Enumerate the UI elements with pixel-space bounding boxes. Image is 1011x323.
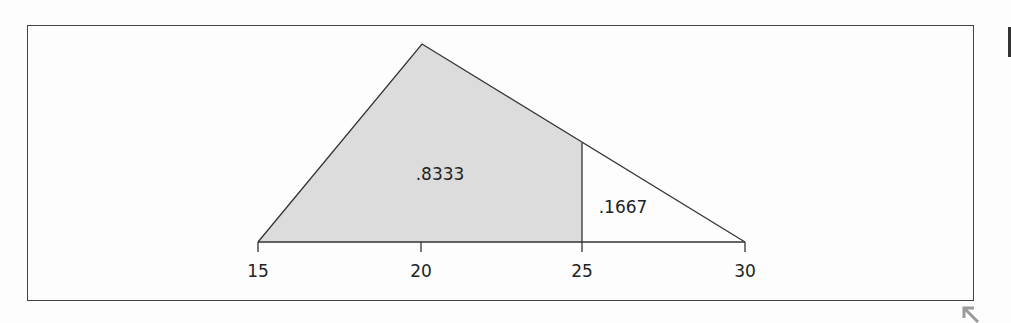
tick-label-25: 25 bbox=[571, 261, 593, 281]
tick-label-30: 30 bbox=[734, 261, 756, 281]
shaded-area bbox=[258, 44, 582, 242]
shaded-probability-label: .8333 bbox=[416, 164, 465, 184]
triangular-distribution-chart: 15 20 25 30 .8333 .1667 bbox=[0, 0, 1011, 323]
unshaded-probability-label: .1667 bbox=[599, 197, 648, 217]
tick-label-15: 15 bbox=[247, 261, 269, 281]
resize-arrow-icon bbox=[964, 308, 978, 322]
tick-label-20: 20 bbox=[410, 261, 432, 281]
